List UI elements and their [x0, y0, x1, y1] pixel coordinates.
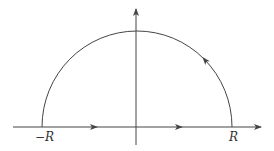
semicircular-arc: [42, 31, 232, 127]
label-r: R: [228, 130, 238, 144]
label-minus-r: −R: [35, 130, 54, 144]
contour-diagram: −R R: [0, 0, 274, 151]
